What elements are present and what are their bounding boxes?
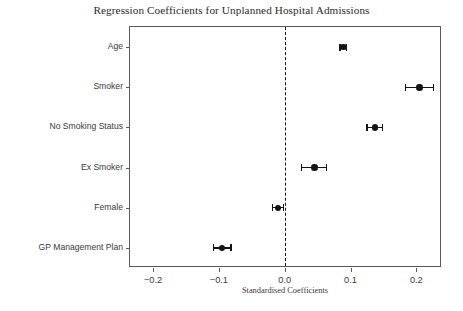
errorbar-cap-lower: [366, 124, 367, 131]
x-tick-mark: [153, 268, 154, 272]
y-tick-label: GP Management Plan: [39, 242, 123, 252]
errorbar-cap-lower: [213, 244, 214, 251]
y-tick-label: Age: [108, 41, 123, 51]
x-tick-label: −0.1: [210, 275, 228, 285]
y-tick-label: Smoker: [93, 81, 123, 91]
y-tick-label: Female: [94, 202, 123, 212]
errorbar-cap-upper: [382, 124, 383, 131]
page-title: Regression Coefficients for Unplanned Ho…: [0, 4, 463, 16]
zero-reference-line: [285, 27, 286, 266]
x-tick-mark: [285, 268, 286, 272]
coefficient-point-marker: [416, 84, 423, 91]
y-tick-label: No Smoking Status: [49, 121, 123, 131]
errorbar-cap-upper: [326, 164, 327, 171]
y-tick-mark: [126, 87, 130, 88]
coefficient-point-marker: [275, 205, 282, 212]
y-tick-mark: [126, 248, 130, 249]
coefficient-point-marker: [311, 164, 318, 171]
x-tick-mark: [219, 268, 220, 272]
coefficient-point-marker: [219, 245, 226, 252]
x-tick-mark: [351, 268, 352, 272]
errorbar-cap-upper: [433, 84, 434, 91]
x-tick-mark: [416, 268, 417, 272]
x-tick-label: 0.0: [278, 275, 291, 285]
errorbar-cap-lower: [272, 204, 273, 211]
x-axis-label: Standardised Coefficients: [129, 286, 441, 295]
errorbar-cap-lower: [405, 84, 406, 91]
x-tick-label: 0.1: [344, 275, 357, 285]
y-tick-mark: [126, 127, 130, 128]
y-tick-label: Ex Smoker: [81, 162, 123, 172]
coefficient-point-marker: [340, 44, 347, 51]
x-tick-label: 0.2: [410, 275, 423, 285]
plot-area: −0.2−0.10.00.10.2: [129, 26, 441, 267]
chart-figure: Regression Coefficients for Unplanned Ho…: [0, 0, 463, 311]
y-tick-mark: [126, 208, 130, 209]
errorbar-cap-upper: [283, 204, 284, 211]
y-tick-mark: [126, 168, 130, 169]
y-tick-mark: [126, 47, 130, 48]
errorbar-cap-upper: [230, 244, 231, 251]
x-tick-label: −0.2: [144, 275, 162, 285]
errorbar-cap-lower: [301, 164, 302, 171]
coefficient-point-marker: [372, 124, 379, 131]
